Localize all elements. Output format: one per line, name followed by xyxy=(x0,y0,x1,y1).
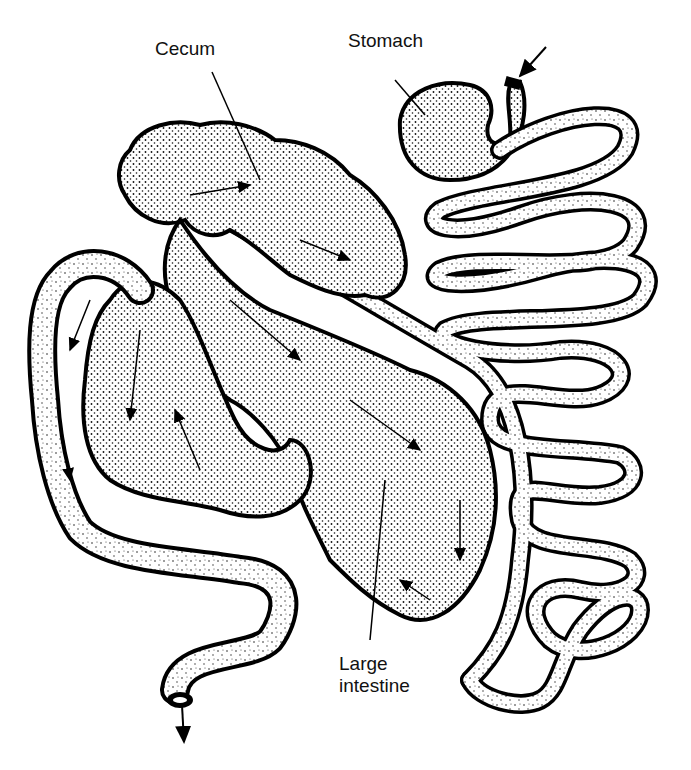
stomach xyxy=(400,76,525,180)
cecum xyxy=(119,122,406,297)
large-intestine-label-line2: intestine xyxy=(339,675,410,697)
rectum xyxy=(168,693,192,707)
inflow-arrow xyxy=(520,47,546,76)
stomach-label: Stomach xyxy=(348,30,423,52)
cecum-label: Cecum xyxy=(155,38,215,60)
outflow-arrow xyxy=(182,705,184,742)
large-intestine-label-line1: Large xyxy=(339,653,388,675)
